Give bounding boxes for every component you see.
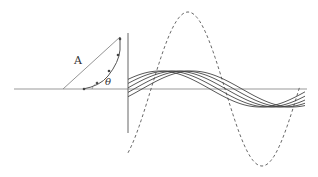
phasor-rotation-arc <box>83 37 120 89</box>
amplitude-label: A <box>74 54 82 67</box>
phasor-vector-A <box>63 37 120 89</box>
angle-theta-label: θ <box>105 76 111 87</box>
phasor-wave-diagram <box>0 0 318 177</box>
